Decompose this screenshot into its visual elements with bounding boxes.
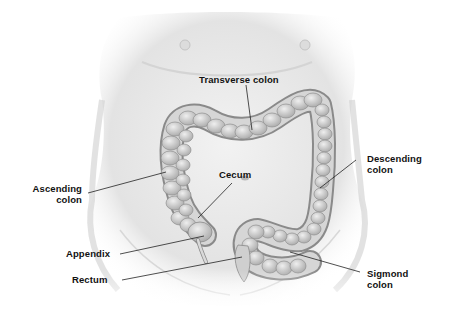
left-nipple <box>180 40 190 50</box>
right-nipple <box>300 40 310 50</box>
label-transverse-colon: Transverse colon <box>199 74 279 85</box>
label-appendix: Appendix <box>66 248 110 259</box>
label-descending-colon-line1: Descending <box>367 153 422 164</box>
label-rectum: Rectum <box>72 274 107 285</box>
label-ascending-colon-line1: Ascending <box>22 183 82 194</box>
label-sigmond-colon: Sigmond colon <box>367 268 408 290</box>
label-descending-colon: Descending colon <box>367 153 422 175</box>
label-ascending-colon-line2: colon <box>22 194 82 205</box>
label-sigmond-colon-line1: Sigmond <box>367 268 408 279</box>
label-cecum: Cecum <box>219 169 251 180</box>
label-descending-colon-line2: colon <box>367 164 422 175</box>
colon-diagram: Transverse colon Ascending colon Descend… <box>0 0 450 319</box>
label-sigmond-colon-line2: colon <box>367 279 408 290</box>
label-ascending-colon: Ascending colon <box>22 183 82 205</box>
